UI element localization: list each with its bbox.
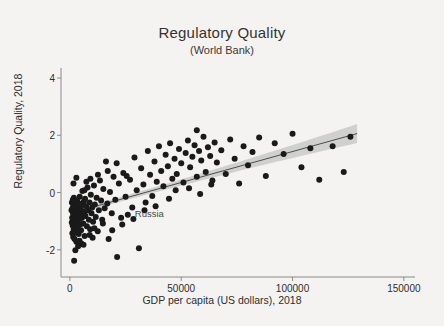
x-axis-title: GDP per capita (US dollars), 2018 [0,294,444,306]
chart-figure: Regulatory Quality (World Bank) 05000010… [0,0,444,326]
y-tick-label: 2 [31,130,55,141]
x-tick-label: 150000 [387,283,420,294]
x-tick-label: 0 [67,283,73,294]
y-tick-label: -2 [31,244,55,255]
x-tick-label: 50000 [167,283,195,294]
plot-axes [57,68,415,281]
y-axis-title: Regulatory Quality, 2018 [12,51,24,211]
annotation-label-russia: Russia [135,208,164,219]
x-tick-label: 100000 [276,283,309,294]
scatter-plot-canvas [0,0,444,326]
data-points [69,127,354,264]
y-tick-label: 0 [31,187,55,198]
y-tick-label: 4 [31,73,55,84]
